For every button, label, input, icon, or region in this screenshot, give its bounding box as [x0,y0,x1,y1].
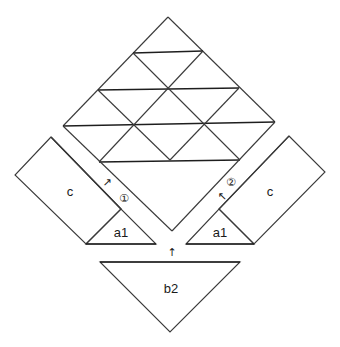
marker-2: ② [226,176,236,189]
left-rect-c: c [15,137,121,244]
left-triangle-label: a1 [114,225,128,240]
arrow-up-icon: ↑ [167,246,176,259]
right-band-outer [219,136,289,209]
right-triangle-a1: a1 [186,209,254,244]
arrow-up-right-icon: ↗ [102,176,111,189]
right-rect-label: c [267,184,274,199]
arrow-up-left-icon: ↖ [217,190,226,203]
marker-1: ① [119,192,129,205]
triangular-grid [63,17,275,231]
dissection-diagram: c a1 c a1 b2 ① ② ↗ ↖ ↑ [0,0,340,347]
bottom-triangle-b2: b2 [100,262,240,332]
right-triangle-label: a1 [213,225,227,240]
left-triangle-a1: a1 [86,209,156,244]
right-rect-c: c [219,136,325,244]
left-rect-label: c [67,184,74,199]
bottom-triangle-label: b2 [164,281,178,296]
